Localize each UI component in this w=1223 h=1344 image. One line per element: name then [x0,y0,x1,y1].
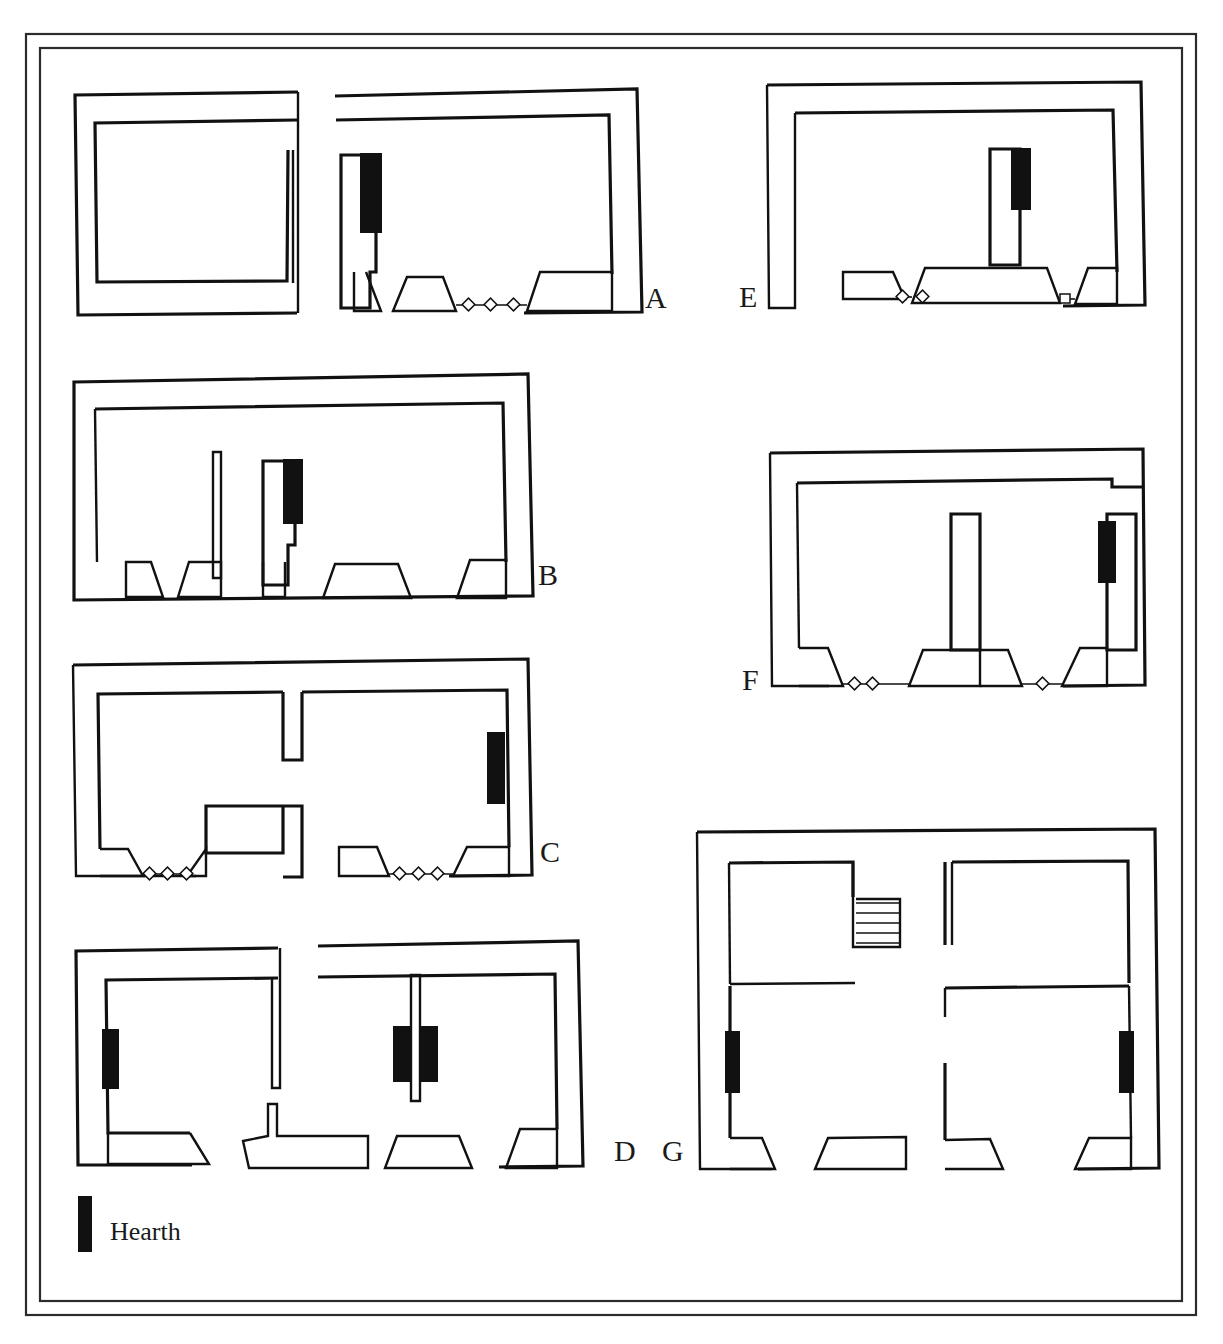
floor-plan-plate: A B [0,0,1223,1344]
figure-root: A B [0,0,1223,1344]
plan-label-E: E [739,280,757,313]
plan-E-hearth [1011,148,1031,210]
plan-E-threshold-marker [1060,294,1070,303]
plan-C-hearth [487,732,505,804]
plan-label-D: D [614,1134,636,1167]
plan-B-hearth [283,459,303,524]
plan-label-G: G [662,1134,684,1167]
plan-G-se-room-north [945,986,1129,988]
hearth-swatch-icon [78,1196,92,1252]
plan-A-hearth [360,153,382,233]
legend-label-hearth: Hearth [110,1217,181,1246]
plan-label-B: B [538,558,558,591]
plan-G-nw-room-south [730,983,855,984]
plan-D-right-hearth-west [393,1026,411,1082]
plan-G-nw-room-west [729,863,730,984]
plan-label-F: F [742,663,759,696]
plan-label-C: C [540,835,560,868]
plan-D-left-hearth [102,1029,119,1089]
plan-D-right-hearth-east [420,1026,438,1082]
plan-G-hearth-east [1119,1031,1134,1093]
plan-G-hearth-west [725,1031,740,1093]
plan-F-hearth [1098,521,1116,583]
plan-label-A: A [645,281,667,314]
